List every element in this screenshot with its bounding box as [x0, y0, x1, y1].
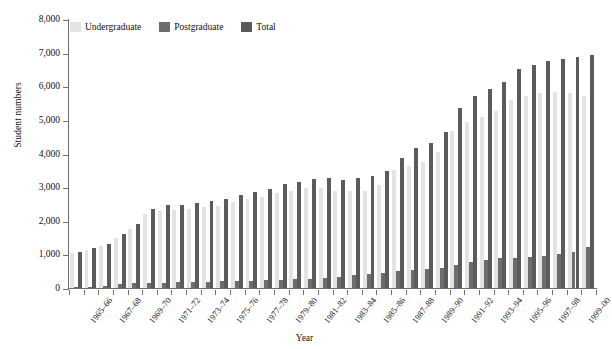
x-axis-tick-label: 1983–84 [352, 296, 378, 325]
bar-total [136, 224, 140, 288]
legend-swatch [241, 22, 252, 32]
x-axis-tick [450, 290, 451, 295]
legend-label: Undergraduate [85, 22, 141, 32]
bar-undergraduate [289, 191, 293, 289]
bar-total [341, 180, 345, 288]
bar-undergraduate [246, 199, 250, 288]
bar-total [122, 234, 126, 288]
bar-total [546, 61, 550, 288]
x-axis-tick-label: 1965–66 [89, 296, 115, 325]
bar-undergraduate [158, 211, 162, 288]
x-axis-tick [201, 290, 202, 295]
bar-total [195, 203, 199, 288]
bar-total [590, 55, 594, 288]
y-axis-tick-label: 7,000 [16, 49, 60, 58]
bar-undergraduate [99, 246, 103, 288]
y-axis-tick [63, 20, 68, 21]
x-axis-tick [479, 290, 480, 295]
x-axis-tick [333, 290, 334, 295]
bar-group [347, 19, 362, 288]
legend-label: Postgraduate [174, 22, 223, 32]
bar-group [362, 19, 377, 288]
legend-label: Total [256, 22, 275, 32]
x-axis-tick [494, 290, 495, 295]
x-axis-tick [596, 290, 597, 295]
legend-swatch [159, 22, 170, 32]
x-axis-tick [171, 290, 172, 295]
bar-group [98, 19, 113, 288]
bar-group [567, 19, 582, 288]
y-axis-tick [63, 255, 68, 256]
bar-group [215, 19, 230, 288]
x-axis-tick-label: 1993–94 [498, 296, 524, 325]
bar-total [385, 171, 389, 288]
x-axis-tick-label: 1989–90 [440, 296, 466, 325]
legend-swatch [70, 22, 81, 32]
bar-group [508, 19, 523, 288]
x-axis-tick [581, 290, 582, 295]
bar-undergraduate [348, 191, 352, 288]
x-axis-tick [567, 290, 568, 295]
bar-total [532, 65, 536, 288]
bar-total [517, 69, 521, 288]
x-axis-tick-label: 1987–88 [411, 296, 437, 325]
x-axis-tick [230, 290, 231, 295]
bar-total [210, 201, 214, 288]
bar-group [186, 19, 201, 288]
bar-undergraduate [319, 188, 323, 288]
bar-groups [69, 19, 596, 288]
x-axis-tick-label: 1985–86 [381, 296, 407, 325]
y-axis-tick [63, 222, 68, 223]
bar-group [259, 19, 274, 288]
x-axis-tick [508, 290, 509, 295]
plot-area: 01,0002,0003,0004,0005,0006,0007,0008,00… [68, 19, 596, 289]
bar-group [420, 19, 435, 288]
x-axis-tick [274, 290, 275, 295]
x-axis-tick-label: 1973–74 [206, 296, 232, 325]
bar-group [435, 19, 450, 288]
bar-undergraduate [231, 202, 235, 288]
bar-total [253, 192, 257, 288]
bar-undergraduate [187, 209, 191, 288]
legend-item: Postgraduate [159, 22, 223, 32]
bar-undergraduate [85, 250, 89, 288]
bar-group [245, 19, 260, 288]
bar-total [166, 205, 170, 288]
bar-group [289, 19, 304, 288]
bar-total [356, 178, 360, 288]
y-axis-tick-label: 1,000 [16, 250, 60, 259]
bar-total [458, 108, 462, 288]
bar-total [400, 158, 404, 288]
bar-undergraduate [114, 238, 118, 288]
bar-total [312, 179, 316, 288]
x-axis-tick [318, 290, 319, 295]
x-axis-tick [245, 290, 246, 295]
x-axis-tick-label: 1999–00 [586, 296, 612, 325]
x-axis-tick [142, 290, 143, 295]
y-axis-tick [63, 87, 68, 88]
y-axis-tick-label: 8,000 [16, 15, 60, 24]
bar-undergraduate [260, 197, 264, 288]
legend-item: Total [241, 22, 275, 32]
bar-group [479, 19, 494, 288]
bar-total [429, 143, 433, 288]
bar-group [406, 19, 421, 288]
bar-group [552, 19, 567, 288]
bar-total [502, 82, 506, 288]
y-axis-tick-label: 6,000 [16, 82, 60, 91]
y-axis-tick [63, 54, 68, 55]
bar-undergraduate [304, 188, 308, 288]
bar-group [333, 19, 348, 288]
bar-total [283, 184, 287, 288]
y-axis-tick-label: 2,000 [16, 217, 60, 226]
bar-total [488, 89, 492, 288]
x-axis-tick-label: 1991–92 [469, 296, 495, 325]
y-axis-tick [63, 121, 68, 122]
bar-total [576, 57, 580, 288]
bar-group [84, 19, 99, 288]
bar-total [239, 195, 243, 288]
x-axis-tick [406, 290, 407, 295]
bar-group [69, 19, 84, 288]
x-axis-tick-label: 1975–76 [235, 296, 261, 325]
